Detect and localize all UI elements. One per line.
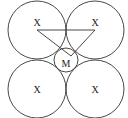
- label-x-bottom-right: X: [91, 84, 99, 95]
- label-m-center: M: [62, 58, 71, 69]
- label-x-top-left: X: [33, 17, 41, 28]
- label-x-top-right: X: [91, 17, 99, 28]
- label-x-bottom-left: X: [33, 84, 41, 95]
- packing-diagram: X X X X M: [0, 0, 128, 118]
